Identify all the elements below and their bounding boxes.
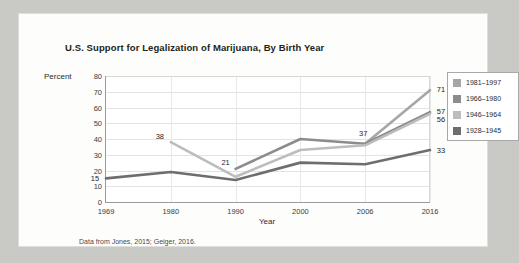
y-axis-title: Percent	[44, 72, 72, 81]
y-axis-tick-label: 50	[94, 119, 102, 128]
x-axis-tick-label: 2006	[357, 207, 374, 216]
legend-item-label: 1966–1980	[466, 95, 501, 102]
x-axis-tick-label: 2016	[422, 207, 439, 216]
x-axis-tick-label: 1990	[227, 207, 244, 216]
legend-item[interactable]: 1946–1964	[453, 110, 514, 119]
legend-swatch-icon	[453, 127, 461, 135]
chart-legend: 1981–19971966–19801946–19641928–1945	[447, 72, 519, 141]
legend-item[interactable]: 1928–1945	[453, 126, 514, 135]
data-point-label: 38	[156, 132, 164, 141]
series-layer	[106, 76, 430, 202]
data-point-label: 71	[437, 85, 445, 94]
y-axis-tick-label: 80	[94, 72, 102, 81]
legend-item[interactable]: 1966–1980	[453, 94, 514, 103]
x-axis-title: Year	[105, 217, 429, 226]
x-gridline	[430, 76, 431, 202]
chart-card: U.S. Support for Legalization of Marijua…	[19, 14, 487, 246]
legend-item-label: 1981–1997	[466, 79, 501, 86]
x-axis-tick-label: 1980	[162, 207, 179, 216]
y-axis-tick-label: 70	[94, 87, 102, 96]
data-point-label: 33	[437, 146, 445, 155]
series-line	[236, 112, 430, 169]
legend-item-label: 1946–1964	[466, 111, 501, 118]
legend-swatch-icon	[453, 79, 461, 87]
legend-item-label: 1928–1945	[466, 127, 501, 134]
data-point-label: 56	[437, 114, 445, 123]
x-axis-tick-label: 2000	[292, 207, 309, 216]
source-note: Data from Jones, 2015; Geiger, 2016.	[79, 238, 196, 245]
x-axis-tick-label: 1969	[98, 207, 115, 216]
legend-item[interactable]: 1981–1997	[453, 78, 514, 87]
page-title: U.S. Support for Legalization of Marijua…	[65, 42, 324, 53]
legend-swatch-icon	[453, 95, 461, 103]
data-point-label: 15	[91, 174, 99, 183]
legend-swatch-icon	[453, 111, 461, 119]
y-axis-tick-label: 30	[94, 150, 102, 159]
y-axis-tick-label: 60	[94, 103, 102, 112]
y-axis-tick-label: 40	[94, 135, 102, 144]
data-point-label: 37	[359, 128, 367, 137]
y-axis-tick-label: 10	[94, 182, 102, 191]
y-axis-tick-label: 0	[98, 198, 102, 207]
plot-area: 0102030405060708019691980199020002006201…	[105, 76, 430, 203]
data-point-label: 21	[221, 157, 229, 166]
